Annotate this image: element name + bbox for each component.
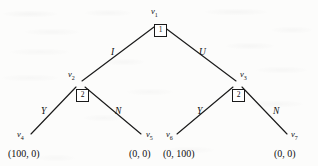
- player-box-v3[interactable]: 2: [232, 89, 245, 102]
- edge-v2-v4: [31, 87, 76, 134]
- edge-v1-v2: [82, 27, 154, 81]
- action-label-right-N: N: [273, 107, 279, 117]
- payoff-v6: (0, 100): [163, 149, 195, 159]
- edge-v3-v7: [242, 87, 287, 134]
- node-label-v5: v5: [146, 130, 153, 141]
- edge-v3-v6: [177, 87, 233, 134]
- action-label-U: U: [199, 48, 206, 58]
- action-label-I: I: [111, 48, 114, 58]
- payoff-v5: (0, 0): [129, 149, 151, 159]
- player-box-v2[interactable]: 2: [76, 89, 89, 102]
- game-tree-figure: v1 1 I U v2 2 v3 2 Y N Y N v4 (100, 0) v…: [0, 0, 318, 166]
- action-label-left-Y: Y: [41, 107, 46, 117]
- node-label-v7: v7: [291, 130, 298, 141]
- payoff-v7: (0, 0): [274, 149, 296, 159]
- node-label-v4: v4: [17, 130, 24, 141]
- payoff-v4: (100, 0): [8, 149, 40, 159]
- node-label-v3: v3: [240, 70, 247, 81]
- edge-v2-v5: [85, 87, 141, 134]
- node-label-v1: v1: [151, 7, 158, 18]
- node-label-v6: v6: [166, 130, 173, 141]
- player-box-v1[interactable]: 1: [154, 24, 167, 37]
- node-label-v2: v2: [68, 70, 75, 81]
- action-label-left-N: N: [115, 107, 121, 117]
- action-label-right-Y: Y: [197, 107, 202, 117]
